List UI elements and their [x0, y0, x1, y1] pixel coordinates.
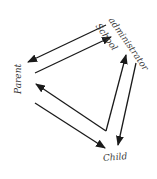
arrows-canvas [0, 0, 157, 179]
arrow-parent-to-school [35, 37, 111, 73]
arrow-school-to-parent [28, 25, 106, 62]
triangle-relationship-diagram: School administrator Parent Child [0, 0, 157, 179]
arrow-child-to-parent [36, 84, 106, 131]
arrow-parent-to-child [35, 103, 105, 148]
node-label-parent: Parent [14, 64, 23, 94]
